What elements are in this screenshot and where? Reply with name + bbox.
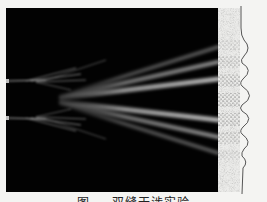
figure-caption: 图 … 双缝干涉实验	[0, 196, 267, 202]
double-slit-figure: 图 … 双缝干涉实验	[0, 0, 267, 202]
lower-slit	[6, 116, 9, 120]
upper-slit	[6, 79, 9, 83]
particle-hits	[218, 8, 240, 192]
interference-beams	[6, 8, 218, 192]
detector-screen	[218, 8, 240, 192]
intensity-curve	[238, 6, 260, 194]
interference-simulation-panel	[6, 8, 218, 192]
